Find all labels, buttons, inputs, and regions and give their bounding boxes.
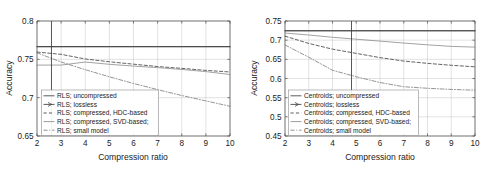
chart-panel-right: 2345678910 0.450.50.550.60.650.70.75 Com… [243,0,485,172]
x-tick-label: 7 [155,139,160,148]
y-axis-title: Accuracy [4,60,14,96]
y-tick-label: 0.55 [266,94,282,103]
x-tick-label: 8 [425,139,430,148]
x-tick-label: 6 [131,139,136,148]
y-tick-labels: 0.450.50.550.60.650.70.75 [266,17,282,141]
y-tick-label: 0.6 [270,75,282,84]
x-axis-title: Compression ratio [98,152,168,162]
x-tick-label: 4 [330,139,335,148]
y-tick-label: 0.75 [18,55,34,64]
legend-label: Centroids; small model [304,127,372,134]
x-tick-label: 7 [401,139,406,148]
legend-label: RLS; small model [57,127,109,134]
y-axis-title: Accuracy [249,60,259,96]
x-axis-title: Compression ratio [345,152,415,162]
y-tick-label: 0.8 [22,17,34,26]
y-tick-label: 0.45 [266,132,282,141]
y-tick-label: 0.7 [22,94,34,103]
legend-label: Centroids; compressed, HDC-based [304,109,410,117]
y-tick-label: 0.65 [18,132,34,141]
x-tick-label: 6 [378,139,383,148]
x-tick-label: 4 [83,139,88,148]
x-tick-label: 5 [107,139,112,148]
x-tick-labels: 2345678910 [35,139,235,148]
x-tick-label: 8 [179,139,184,148]
x-tick-label: 9 [449,139,454,148]
y-tick-label: 0.5 [270,113,282,122]
y-tick-label: 0.7 [270,36,282,45]
y-tick-label: 0.75 [266,17,282,26]
legend-label: Centroids; compressed, SVD-based; [304,118,411,126]
x-tick-label: 3 [306,139,311,148]
y-tick-label: 0.65 [266,55,282,64]
legend-label: RLS; compressed, SVD-based; [57,118,149,126]
legend-label: Centroids; lossless [304,101,360,108]
legend-label: Centroids; uncompressed [304,92,379,100]
x-tick-label: 9 [204,139,209,148]
y-tick-labels: 0.650.70.750.8 [18,17,34,141]
chart-svg-left: 2345678910 0.650.70.750.8 Compression ra… [0,0,242,172]
legend-label: RLS; uncompressed [57,92,117,100]
chart-panel-left: 2345678910 0.650.70.750.8 Compression ra… [0,0,242,172]
x-tick-label: 10 [225,139,235,148]
legend-left: RLS; uncompressedRLS; losslessRLS; compr… [42,90,159,136]
chart-svg-right: 2345678910 0.450.50.550.60.650.70.75 Com… [243,0,485,172]
x-tick-labels: 2345678910 [283,139,480,148]
x-tick-label: 3 [59,139,64,148]
legend-right: Centroids; uncompressedCentroids; lossle… [289,90,419,136]
x-tick-label: 2 [283,139,288,148]
x-tick-label: 2 [35,139,40,148]
figure-container: 2345678910 0.650.70.750.8 Compression ra… [0,0,485,172]
legend-label: RLS; compressed, HDC-based [57,109,148,117]
x-tick-label: 5 [354,139,359,148]
legend-label: RLS; lossless [57,101,98,108]
x-tick-label: 10 [470,139,480,148]
